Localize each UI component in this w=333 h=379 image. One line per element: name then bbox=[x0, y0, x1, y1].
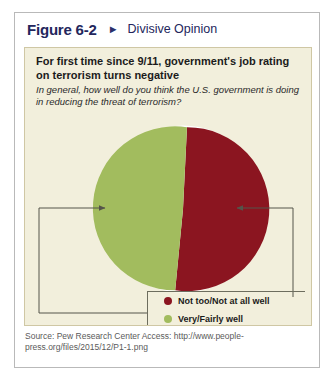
pie-chart-svg bbox=[25, 48, 312, 326]
figure-card: Figure 6-2 ► Divisive Opinion For first … bbox=[14, 12, 320, 368]
legend-swatch-green bbox=[164, 315, 172, 323]
legend-label-not-too-not-at-all-well: Not too/Not at all well bbox=[178, 296, 270, 306]
figure-heading: Figure 6-2 ► Divisive Opinion bbox=[15, 13, 319, 45]
chart-legend: Not too/Not at all well Very/Fairly well bbox=[147, 291, 305, 326]
pie-chart bbox=[25, 48, 312, 326]
figure-title: Divisive Opinion bbox=[128, 22, 218, 36]
pie-slice-not-too-not-at-all-well bbox=[175, 127, 269, 291]
source-note: Source: Pew Research Center Access: http… bbox=[25, 331, 313, 353]
legend-label-very-fairly-well: Very/Fairly well bbox=[178, 314, 243, 324]
figure-label: Figure 6-2 bbox=[27, 21, 97, 38]
triangle-right-icon: ► bbox=[108, 24, 119, 35]
legend-swatch-red bbox=[164, 297, 172, 305]
chart-panel: For first time since 9/11, government's … bbox=[24, 47, 312, 326]
legend-item-very-fairly-well: Very/Fairly well bbox=[164, 314, 243, 324]
pie-slice-very-fairly-well bbox=[93, 126, 187, 290]
legend-item-not-too-not-at-all-well: Not too/Not at all well bbox=[164, 296, 270, 306]
